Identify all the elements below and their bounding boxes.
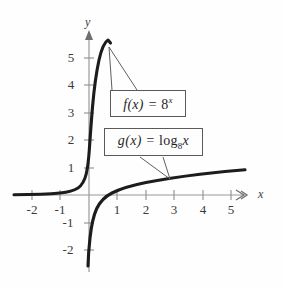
figure-container: y x -2 -1 1 2 3 4 5 5 4 3 2 1 -1 -2 f(x)… [0, 0, 284, 288]
equals-sign-f: = [148, 96, 158, 111]
callout-exponential-equation: f(x) = 8x [123, 95, 173, 113]
y-tick-label-neg1: -1 [58, 216, 78, 229]
leader-lines-exponential [109, 47, 137, 90]
curve-logarithmic [88, 170, 245, 266]
callout-logarithmic: g(x) = log8x [104, 128, 203, 156]
x-tick-label-neg2: -2 [22, 203, 42, 216]
y-tick-label-2: 2 [64, 133, 78, 146]
y-tick-label-1: 1 [64, 161, 78, 174]
fn-arg-f: (x) [127, 96, 143, 111]
exponent-x: x [169, 95, 173, 105]
equals-sign-g: = [145, 133, 155, 148]
callout-logarithmic-equation: g(x) = log8x [118, 133, 189, 151]
x-tick-label-4: 4 [196, 203, 210, 216]
x-tick-label-1: 1 [110, 203, 124, 216]
y-axis-label: y [85, 16, 90, 28]
y-axis-arrowhead [85, 30, 93, 40]
x-tick-label-2: 2 [139, 203, 153, 216]
leader-lines-logarithmic [140, 157, 170, 179]
fn-arg-g: (x) [125, 133, 141, 148]
y-tick-label-4: 4 [64, 78, 78, 91]
callout-exponential: f(x) = 8x [110, 90, 186, 117]
x-tick-label-5: 5 [224, 203, 238, 216]
y-tick-label-neg2: -2 [58, 243, 78, 256]
curve-exponential [14, 40, 111, 195]
y-tick-label-5: 5 [64, 51, 78, 64]
base-8-f: 8 [161, 96, 168, 111]
y-tick-label-3: 3 [64, 106, 78, 119]
log-argument-x: x [183, 133, 190, 148]
x-tick-label-3: 3 [167, 203, 181, 216]
x-axis-label: x [258, 188, 263, 200]
log-operator: log [159, 133, 178, 148]
